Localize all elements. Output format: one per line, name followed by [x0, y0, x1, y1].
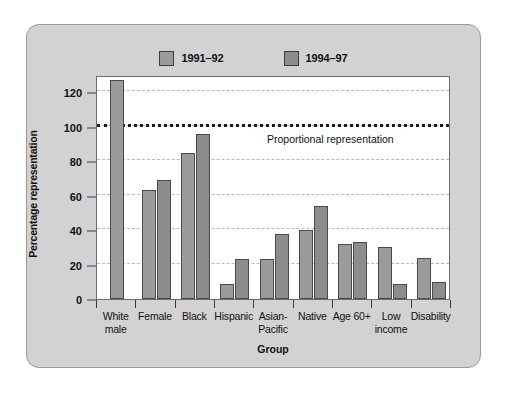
x-category-label: Hispanic — [214, 310, 253, 323]
y-tick-label: 100 — [64, 122, 82, 134]
x-category-label: Disability — [411, 310, 450, 323]
bar — [417, 258, 431, 299]
x-category-line: Pacific — [253, 323, 292, 336]
y-tick-mark — [87, 162, 96, 163]
y-tick-mark — [87, 231, 96, 232]
x-tick-mark — [371, 300, 372, 308]
bar — [338, 244, 352, 299]
x-category-line: Disability — [411, 310, 450, 323]
bar — [235, 259, 249, 299]
legend-entry-1991-92: 1991–92 — [159, 51, 223, 66]
y-axis: 020406080100120 Percentage representatio… — [0, 76, 96, 302]
legend-label: 1991–92 — [181, 52, 223, 64]
x-category-line: income — [371, 323, 410, 336]
y-tick-label: 60 — [70, 191, 82, 203]
bar — [220, 284, 234, 300]
x-tick-mark — [411, 300, 412, 308]
bar — [393, 284, 407, 300]
bar — [353, 242, 367, 299]
x-category-line: Low — [371, 310, 410, 323]
x-category-label: Whitemale — [96, 310, 135, 335]
x-category-line: Age 60+ — [332, 310, 371, 323]
bar — [275, 234, 289, 299]
x-category-label: Black — [175, 310, 214, 323]
x-category-label: Native — [293, 310, 332, 323]
x-category-label: Asian-Pacific — [253, 310, 292, 335]
bar — [181, 153, 195, 299]
bar — [299, 230, 313, 299]
x-tick-mark — [96, 300, 97, 308]
y-tick-mark — [87, 300, 96, 301]
y-axis-label: Percentage representation — [27, 99, 39, 289]
x-axis-label: Group — [96, 343, 450, 355]
bar — [314, 206, 328, 299]
bar — [157, 180, 171, 299]
chart-figure: 1991–92 1994–97 020406080100120 Percenta… — [0, 0, 514, 395]
chart-legend: 1991–92 1994–97 — [26, 46, 481, 70]
y-tick-mark — [87, 265, 96, 266]
y-tick-label: 40 — [70, 225, 82, 237]
y-tick-label: 20 — [70, 260, 82, 272]
x-category-label: Lowincome — [371, 310, 410, 335]
bar — [432, 282, 446, 299]
x-category-line: Asian- — [253, 310, 292, 323]
x-category-line: Black — [175, 310, 214, 323]
bar — [142, 190, 156, 299]
bar — [110, 80, 124, 299]
x-tick-mark — [293, 300, 294, 308]
x-category-label: Age 60+ — [332, 310, 371, 323]
x-category-line: Native — [293, 310, 332, 323]
bar — [378, 247, 392, 299]
y-tick-mark — [87, 93, 96, 94]
x-tick-mark — [135, 300, 136, 308]
legend-swatch-icon — [284, 51, 299, 66]
bar — [196, 134, 210, 299]
y-tick-label: 120 — [64, 87, 82, 99]
y-tick-mark — [87, 196, 96, 197]
x-tick-mark — [214, 300, 215, 308]
legend-swatch-icon — [159, 51, 174, 66]
legend-label: 1994–97 — [306, 52, 348, 64]
y-tick-label: 0 — [76, 294, 82, 306]
x-tick-mark — [175, 300, 176, 308]
plot-area: Proportional representation — [96, 76, 450, 300]
bars — [97, 77, 449, 299]
x-tick-mark — [253, 300, 254, 308]
x-tick-mark — [450, 300, 451, 308]
y-tick-label: 80 — [70, 156, 82, 168]
x-tick-mark — [332, 300, 333, 308]
x-category-line: White — [96, 310, 135, 323]
y-tick-mark — [87, 127, 96, 128]
x-category-line: Female — [135, 310, 174, 323]
x-category-label: Female — [135, 310, 174, 323]
x-category-line: male — [96, 323, 135, 336]
x-category-line: Hispanic — [214, 310, 253, 323]
bar — [260, 259, 274, 299]
legend-entry-1994-97: 1994–97 — [284, 51, 348, 66]
